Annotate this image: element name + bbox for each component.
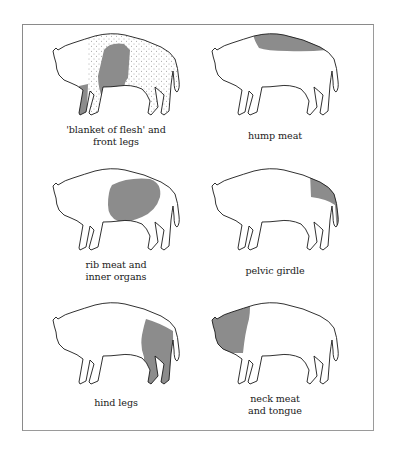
bison-pelvic-girdle-icon (187, 163, 363, 273)
bison-neck-meat-icon (187, 297, 363, 407)
caption-hump-meat: hump meat (187, 130, 363, 142)
panel-hind-legs: hind legs (28, 297, 204, 432)
panel-blanket-of-flesh: 'blanket of flesh' and front legs (28, 28, 204, 163)
bison-hump-meat-icon (187, 28, 363, 138)
panel-neck-meat: neck meat and tongue (187, 297, 363, 432)
bison-hind-legs-icon (28, 297, 204, 407)
caption-pelvic-girdle: pelvic girdle (187, 265, 363, 277)
panel-pelvic-girdle: pelvic girdle (187, 163, 363, 298)
bison-rib-meat-icon (28, 163, 204, 273)
bison-blanket-of-flesh-icon (28, 28, 204, 138)
caption-hind-legs: hind legs (28, 397, 204, 409)
panel-hump-meat: hump meat (187, 28, 363, 163)
caption-blanket-of-flesh: 'blanket of flesh' and front legs (28, 124, 204, 148)
caption-neck-meat: neck meat and tongue (187, 393, 363, 417)
panel-rib-meat: rib meat and inner organs (28, 163, 204, 298)
caption-rib-meat: rib meat and inner organs (28, 259, 204, 283)
